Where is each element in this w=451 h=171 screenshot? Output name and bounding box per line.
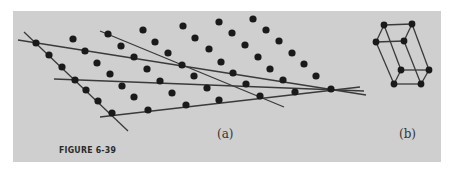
lattice-point (288, 49, 295, 56)
lattice-point (275, 37, 282, 44)
lattice-point (143, 65, 150, 72)
lattice-lines (18, 31, 366, 131)
lattice-point (190, 72, 197, 79)
unit-cell-vertex (401, 38, 408, 45)
lattice-point (71, 76, 78, 83)
lattice-point (205, 45, 212, 52)
lattice-point (191, 34, 198, 41)
figure-caption: FIGURE 6-39 (59, 144, 116, 155)
lattice-point (262, 26, 269, 33)
lattice-point (300, 60, 307, 67)
lattice-point (327, 85, 334, 92)
unit-cell-vertex (373, 39, 380, 46)
unit-cell-edge (404, 41, 421, 84)
lattice-point (241, 41, 248, 48)
lattice-points (32, 15, 334, 116)
lattice-point (254, 53, 261, 60)
lattice-point (69, 35, 76, 42)
unit-cell-edge (376, 42, 394, 84)
lattice-point (106, 70, 113, 77)
lattice-line (100, 87, 360, 117)
panel-b-label: (b) (399, 127, 416, 141)
unit-cell-edge (384, 24, 412, 25)
lattice-point (179, 22, 186, 29)
lattice-point (215, 96, 222, 103)
lattice-point (168, 89, 175, 96)
lattice-point (242, 80, 249, 87)
lattice-point (45, 51, 52, 58)
unit-cell-vertex (418, 81, 425, 88)
lattice-line (18, 40, 366, 95)
lattice-point (203, 84, 210, 91)
lattice-point (130, 53, 137, 60)
lattice-point (291, 88, 298, 95)
lattice-point (139, 26, 146, 33)
unit-cell-vertex (409, 21, 416, 28)
lattice-point (229, 69, 236, 76)
lattice-point (256, 92, 263, 99)
unit-cell-vertex (426, 67, 433, 74)
lattice-point (182, 101, 189, 108)
lattice-point (266, 65, 273, 72)
lattice-point (279, 76, 286, 83)
lattice-point (118, 82, 125, 89)
unit-cell-edge (412, 24, 429, 70)
lattice-point (228, 29, 235, 36)
lattice-point (108, 109, 115, 116)
lattice-point (164, 49, 171, 56)
lattice-point (144, 106, 151, 113)
lattice-point (81, 47, 88, 54)
lattice-point (151, 38, 158, 45)
panel-a-label: (a) (217, 127, 234, 141)
lattice-point (249, 15, 256, 22)
lattice-point (312, 72, 319, 79)
lattice-point (93, 59, 100, 66)
lattice-point (104, 30, 111, 37)
lattice-point (58, 63, 65, 70)
lattice-point (32, 39, 39, 46)
unit-cell-vertex (398, 67, 405, 74)
unit-cell-edge (384, 25, 401, 70)
lattice-point (215, 18, 222, 25)
unit-cell-vertex (391, 81, 398, 88)
lattice-point (82, 86, 89, 93)
lattice-point (117, 42, 124, 49)
lattice-point (217, 58, 224, 65)
lattice-point (178, 61, 185, 68)
lattice-point (94, 97, 101, 104)
unit-cell-diagram (373, 21, 433, 88)
lattice-line (100, 31, 284, 107)
lattice-point (156, 77, 163, 84)
lattice-point (130, 93, 137, 100)
unit-cell-vertex (381, 22, 388, 29)
